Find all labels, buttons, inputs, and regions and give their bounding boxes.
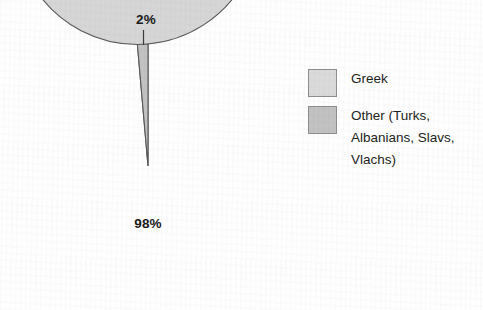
legend-swatch-other xyxy=(308,106,337,134)
legend-label-other-line-2: Albanians, Slavs, xyxy=(351,127,455,149)
legend-label-greek: Greek xyxy=(351,68,388,90)
slice-label-98-percent: 98% xyxy=(118,216,178,231)
legend-label-greek-line-1: Greek xyxy=(351,68,388,90)
legend-swatch-greek xyxy=(308,69,337,97)
legend-label-other: Other (Turks, Albanians, Slavs, Vlachs) xyxy=(351,105,455,171)
pie-chart-graphic xyxy=(0,0,300,310)
legend-label-other-line-3: Vlachs) xyxy=(351,149,455,171)
legend-label-other-line-1: Other (Turks, xyxy=(351,105,455,127)
legend-item-other[interactable]: Other (Turks, Albanians, Slavs, Vlachs) xyxy=(308,105,480,171)
slice-label-2-percent: 2% xyxy=(122,12,170,27)
pie-chart-area: 2% 98% xyxy=(0,0,300,310)
pie-slice-other[interactable] xyxy=(137,44,148,166)
chart-legend: Greek Other (Turks, Albanians, Slavs, Vl… xyxy=(308,68,480,179)
legend-item-greek[interactable]: Greek xyxy=(308,68,480,97)
